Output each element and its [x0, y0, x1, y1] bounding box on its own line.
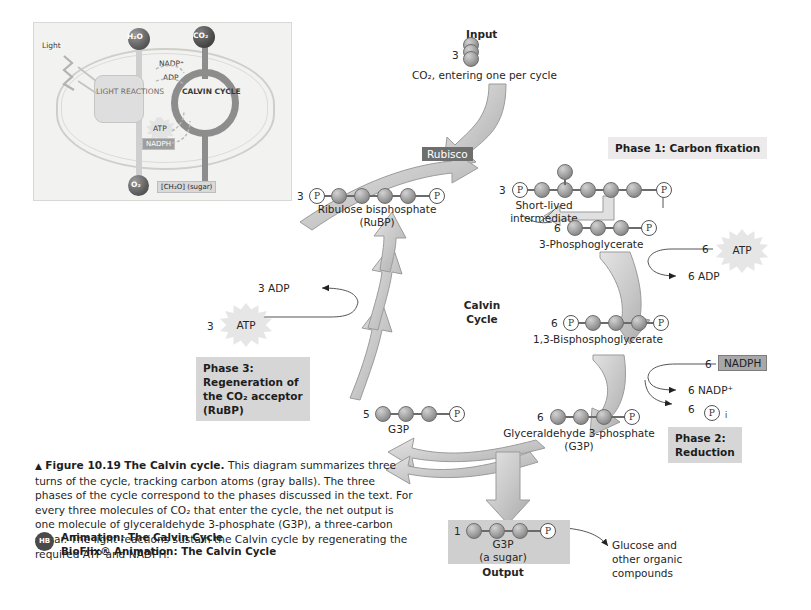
atp-phase2-label: ATP: [716, 244, 768, 256]
bpg-label: 1,3-Bisphosphoglycerate: [533, 333, 663, 345]
pg3-label: 3-Phosphoglycerate: [539, 238, 643, 250]
h2o-label: H₂O: [127, 32, 143, 41]
molecule-g3p-regeneration: P: [375, 405, 467, 423]
animation-link-1[interactable]: Animation: The Calvin Cycle: [61, 531, 276, 545]
branch-carbon: [557, 164, 573, 180]
phase-1-label: Phase 1: Carbon fixation: [608, 137, 767, 159]
output-g3p-label: G3P (a sugar): [448, 538, 558, 564]
nadp-plus-label: NADP⁺: [159, 59, 184, 68]
atp-label-inset: ATP: [153, 124, 167, 133]
animation-link-2[interactable]: BioFlix® Animation: The Calvin Cycle: [61, 545, 276, 559]
rubisco-enzyme-label: Rubisco: [422, 147, 473, 161]
bpg-count: 6: [551, 317, 558, 329]
co2-label: CO₂: [193, 31, 208, 40]
atp-phase3-label: ATP: [220, 319, 272, 331]
sugar-label-inset: [CH₂O] (sugar): [157, 181, 216, 193]
input-caption: CO₂, entering one per cycle: [412, 69, 557, 81]
rubp-label: Ribulose bisphosphate (RuBP): [287, 203, 467, 229]
nadph-box: NADPH: [718, 355, 767, 371]
calvin-cycle-inset-label: CALVIN CYCLE: [182, 87, 228, 96]
atp-phase2-count: 6: [702, 243, 709, 255]
adp-phase2-label: 6 ADP: [688, 270, 720, 282]
output-label: Output: [448, 566, 558, 578]
output-count: 1: [454, 525, 461, 537]
calvin-cycle-center-label: Calvin Cycle: [447, 298, 517, 326]
nadph-box-inset: NADPH: [142, 138, 175, 150]
g3p-count: 6: [537, 411, 544, 423]
light-reactions-shape: [94, 75, 144, 123]
phase-3-label: Phase 3: Regeneration of the CO₂ accepto…: [196, 357, 310, 421]
adp-phase3-label: 3 ADP: [258, 282, 290, 294]
phase-2-label: Phase 2: Reduction: [668, 427, 742, 463]
photosynthesis-overview-thumbnail: H₂O O₂ CO₂ CALVIN CYCLE LIGHT REACTIONS …: [33, 22, 292, 201]
figure-number: Figure 10.19: [45, 459, 121, 471]
atp-phase3-count: 3: [207, 320, 214, 332]
pi-phase2: 6 P i: [688, 398, 723, 418]
input-count: 3: [452, 49, 459, 61]
calvin-cycle-ring: [171, 69, 239, 137]
rubp-count: 3: [297, 190, 304, 202]
g3p-label: Glyceraldehyde 3-phosphate (G3P): [490, 427, 668, 453]
g3p-regen-label: G3P: [388, 423, 409, 435]
nadp-plus-phase2-label: 6 NADP⁺: [688, 384, 733, 396]
light-reactions-label: LIGHT REACTIONS: [96, 87, 140, 96]
molecule-glyceraldehyde-3-phosphate: P: [550, 408, 642, 426]
molecule-3-phosphoglycerate: P: [567, 219, 659, 237]
hb-badge-icon: HB: [35, 532, 54, 551]
g3p-regen-count: 5: [363, 408, 370, 420]
intermediate-count: 3: [499, 184, 506, 196]
o2-label: O₂: [131, 180, 141, 189]
figure-title: The Calvin cycle.: [124, 459, 224, 471]
light-label: Light: [42, 41, 61, 50]
pi-count: 6: [688, 403, 695, 415]
molecule-1-3-bisphosphoglycerate: P P: [563, 314, 673, 332]
molecule-intermediate: P P: [512, 181, 672, 199]
figure-canvas: H₂O O₂ CO₂ CALVIN CYCLE LIGHT REACTIONS …: [0, 0, 811, 610]
nadph-count: 6: [705, 358, 712, 370]
adp-label-inset: ADP: [163, 73, 178, 82]
pi-subscript: i: [725, 411, 727, 420]
caption-triangle: ▲: [35, 461, 42, 471]
glucose-note: Glucose and other organic compounds: [612, 538, 682, 580]
pg3-count: 6: [554, 222, 561, 234]
sugar-shaft: [202, 135, 208, 183]
